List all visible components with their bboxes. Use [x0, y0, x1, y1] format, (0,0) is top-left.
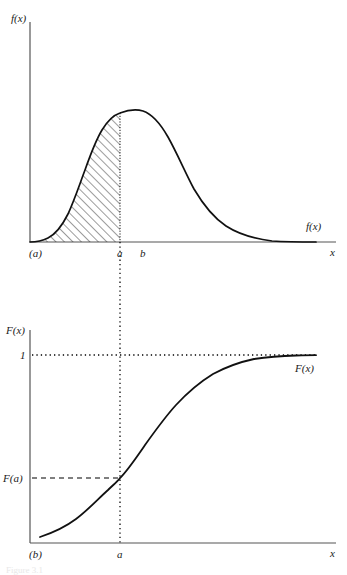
cdf-curve-label: F(x) — [294, 362, 314, 375]
pdf-xaxis-label: x — [329, 246, 335, 258]
cdf-tick-one-label: 1 — [20, 349, 26, 361]
cdf-panel-label: (b) — [29, 548, 42, 561]
pdf-panel-label: (a) — [29, 247, 42, 260]
pdf-tick-a-label: a — [117, 247, 123, 259]
cdf-tick-a-label: a — [117, 548, 123, 560]
pdf-curve-label: f(x) — [306, 220, 322, 233]
figure-container: f(x) f(x) x (a) a b — [0, 0, 347, 575]
top-panel: f(x) f(x) x (a) a b — [11, 12, 336, 260]
pdf-tick-b-label: b — [140, 247, 146, 259]
pdf-shaded-area — [30, 105, 122, 243]
figure-caption: Figure 3.1 — [6, 565, 43, 575]
cdf-xaxis-label: x — [329, 547, 335, 559]
cdf-yaxis-label: F(x) — [5, 324, 25, 337]
pdf-yaxis-label: f(x) — [11, 12, 27, 25]
bottom-panel: F(x) 1 F(a) F(x) x (b) a — [2, 324, 336, 561]
cdf-tick-Fa-label: F(a) — [2, 472, 23, 485]
cdf-curve — [40, 355, 316, 537]
statistics-figure: f(x) f(x) x (a) a b — [0, 0, 347, 575]
